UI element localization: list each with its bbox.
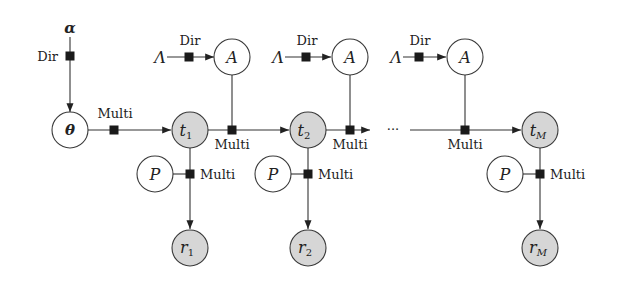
dir-factor-theta — [66, 52, 75, 61]
lambda-label-2: Λ — [270, 48, 284, 67]
PM-node: P — [487, 156, 523, 192]
multi-label-t2-r2: Multi — [318, 167, 353, 182]
multi-label-t2-next: Multi — [332, 137, 367, 152]
t2-subscript: 2 — [304, 130, 310, 141]
multi-factor-t1-r1 — [186, 170, 195, 179]
r1-node: r1 — [172, 230, 208, 266]
t1-subscript: 1 — [186, 130, 192, 141]
t1-node: t1 — [172, 112, 208, 148]
theta-node: θ — [52, 112, 88, 148]
multi-label-theta-t1: Multi — [97, 106, 132, 121]
multi-label-t1-t2: Multi — [214, 137, 249, 152]
tM-subscript: M — [535, 130, 547, 141]
P1-label: P — [149, 165, 161, 184]
alpha-prior-group: α Dir — [37, 19, 76, 112]
multi-label-prev-tM: Multi — [447, 137, 482, 152]
dir-factor-A1 — [185, 53, 194, 62]
r1-subscript: 1 — [188, 247, 194, 258]
t2-node: t2 — [290, 112, 326, 148]
alpha-label: α — [64, 19, 76, 37]
theta-label: θ — [65, 121, 75, 139]
multi-factor-t1-t2 — [228, 126, 237, 135]
dir-factor-A2 — [302, 53, 311, 62]
factor-graph-diagram: α Dir θ Multi Λ Dir A t1 Multi P Multi r… — [0, 0, 618, 288]
PM-label: P — [499, 165, 511, 184]
AM-label: A — [457, 48, 471, 67]
tM-node: tM — [522, 112, 558, 148]
ellipsis: ··· — [387, 122, 399, 137]
A2-label: A — [342, 48, 356, 67]
r2-node: r2 — [290, 230, 326, 266]
dir-label-theta: Dir — [37, 49, 59, 64]
A1-node: A — [214, 39, 250, 75]
dir-label-A2: Dir — [297, 33, 319, 48]
P2-label: P — [267, 165, 279, 184]
multi-label-tM-rM: Multi — [550, 167, 585, 182]
multi-factor-t2-r2 — [304, 170, 313, 179]
A1-label: A — [224, 48, 238, 67]
lambda-label-M: Λ — [388, 48, 402, 67]
dir-label-AM: Dir — [410, 33, 432, 48]
multi-factor-t2-next — [346, 126, 355, 135]
multi-factor-tM-rM — [536, 170, 545, 179]
P2-node: P — [255, 156, 291, 192]
multi-factor-theta-t1 — [110, 126, 119, 135]
A2-node: A — [332, 39, 368, 75]
multi-label-t1-r1: Multi — [200, 167, 235, 182]
multi-factor-prev-tM — [461, 126, 470, 135]
AM-node: A — [447, 39, 483, 75]
P1-node: P — [137, 156, 173, 192]
dir-factor-AM — [415, 53, 424, 62]
lambda-label-1: Λ — [152, 48, 166, 67]
r2-subscript: 2 — [306, 247, 312, 258]
rM-subscript: M — [536, 247, 548, 258]
rM-node: rM — [522, 230, 558, 266]
dir-label-A1: Dir — [180, 33, 202, 48]
